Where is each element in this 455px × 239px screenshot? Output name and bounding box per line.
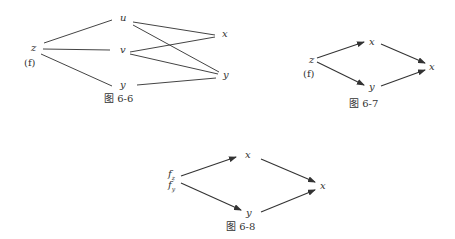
- edge-u-x: [133, 22, 215, 35]
- node-y-mid: y: [120, 80, 126, 90]
- arrow-x-x: [261, 159, 315, 182]
- node-fy: fy: [168, 180, 175, 194]
- edge-z-u: [44, 20, 112, 43]
- node-x-right: x: [429, 62, 435, 72]
- arrow-f-x: [181, 157, 236, 176]
- edge-y-y: [137, 78, 216, 85]
- figure-6-6-edges: [41, 20, 219, 86]
- arrow-z-y: [317, 62, 364, 85]
- edge-z-v: [43, 49, 110, 50]
- node-x-mid: x: [245, 150, 251, 160]
- node-f-label: (f): [24, 58, 36, 68]
- node-x-right: x: [320, 181, 326, 191]
- arrow-x-x: [381, 44, 425, 63]
- arrow-z-x: [317, 42, 364, 58]
- edge-v-x: [130, 37, 215, 52]
- node-y-mid: y: [369, 82, 375, 92]
- figure-caption-6-8: 图 6-8: [226, 222, 255, 232]
- node-y-right: y: [223, 70, 229, 80]
- figure-caption-6-7: 图 6-7: [349, 99, 378, 109]
- node-x: x: [222, 29, 228, 39]
- figure-6-7-edges: [317, 42, 425, 86]
- node-v: v: [120, 45, 126, 55]
- arrow-y-x: [381, 70, 425, 86]
- node-f-label: (f): [303, 69, 315, 79]
- arrow-y-x: [261, 190, 315, 212]
- node-u: u: [120, 13, 126, 23]
- node-y-mid: y: [246, 208, 252, 218]
- edge-z-y: [41, 54, 112, 86]
- node-z: z: [309, 55, 314, 65]
- node-x-mid: x: [369, 37, 375, 47]
- figure-6-8-edges: [181, 157, 315, 212]
- arrow-f-y: [181, 183, 241, 210]
- node-z: z: [31, 43, 36, 53]
- figure-caption-6-6: 图 6-6: [104, 94, 133, 104]
